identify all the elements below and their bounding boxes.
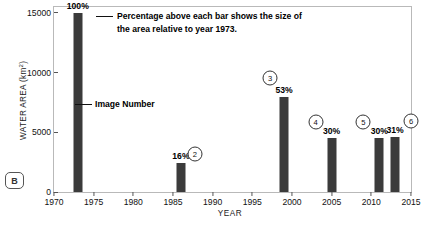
bar: [391, 137, 400, 193]
x-axis-tick-label: 1995: [243, 197, 262, 207]
x-axis-tick-mark: [252, 192, 253, 196]
y-axis-title: WATER AREA (km2): [18, 30, 29, 170]
bar: [73, 13, 82, 192]
x-axis-tick-mark: [54, 192, 55, 196]
x-axis-tick: 2015: [401, 192, 420, 207]
x-axis-tick: 2000: [282, 192, 301, 207]
y-axis-tick-mark: [54, 72, 58, 73]
y-axis-tick: 10000: [27, 68, 54, 78]
image-number-badge: 3: [263, 70, 278, 85]
bar-percent-label: 53%: [275, 85, 292, 95]
x-axis-tick: 1975: [84, 192, 103, 207]
x-axis-tick: 1970: [44, 192, 63, 207]
x-axis-tick-mark: [331, 192, 332, 196]
x-axis-tick: 1980: [124, 192, 143, 207]
x-axis-tick-label: 1970: [44, 197, 63, 207]
x-axis-tick-label: 2015: [401, 197, 420, 207]
y-axis-title-close: ): [19, 61, 28, 64]
x-axis-tick-mark: [212, 192, 213, 196]
x-axis-tick-label: 1985: [163, 197, 182, 207]
chart-annotation-note: Percentage above each bar shows the size…: [117, 10, 377, 35]
bar: [280, 97, 289, 192]
y-axis-tick-label: 10000: [27, 68, 54, 78]
x-axis-tick: 2005: [322, 192, 341, 207]
bar-percent-label: 30%: [371, 126, 388, 136]
x-axis-tick-label: 2000: [282, 197, 301, 207]
x-axis-tick-mark: [133, 192, 134, 196]
y-axis-tick: 5000: [32, 127, 54, 137]
x-axis-tick-label: 1980: [124, 197, 143, 207]
bar: [176, 163, 185, 192]
x-axis-title: YEAR: [45, 209, 415, 218]
x-axis-tick-mark: [173, 192, 174, 196]
y-axis-tick: 15000: [27, 8, 54, 18]
x-axis-tick: 1995: [243, 192, 262, 207]
y-axis-title-superscript: 2: [18, 64, 24, 68]
y-axis-tick-mark: [54, 132, 58, 133]
annotation-line-1: Percentage above each bar shows the size…: [117, 10, 377, 23]
image-number-legend-label: Image Number: [95, 99, 155, 109]
y-axis-tick-mark: [54, 12, 58, 13]
image-number-badge: 5: [356, 115, 371, 130]
x-axis-tick-mark: [292, 192, 293, 196]
x-axis-tick-mark: [371, 192, 372, 196]
image-number-badge: 6: [404, 113, 419, 128]
x-axis-tick-label: 1975: [84, 197, 103, 207]
x-axis-tick-mark: [93, 192, 94, 196]
x-axis-tick-mark: [411, 192, 412, 196]
y-axis-tick-label: 5000: [32, 127, 54, 137]
bar: [375, 138, 384, 192]
x-axis-tick: 1990: [203, 192, 222, 207]
bar-percent-label: 100%: [67, 1, 89, 11]
bar-percent-label: 31%: [387, 125, 404, 135]
y-axis-title-text: WATER AREA (km: [19, 67, 28, 139]
bar-percent-label: 30%: [323, 126, 340, 136]
annotation-leader-line: [96, 16, 113, 17]
image-number-badge: 4: [308, 114, 323, 129]
image-number-leader-line: [75, 104, 92, 105]
x-axis-tick-label: 1990: [203, 197, 222, 207]
x-axis-tick: 1985: [163, 192, 182, 207]
panel-label: B: [5, 172, 24, 189]
x-axis-tick-label: 2005: [322, 197, 341, 207]
annotation-line-2: the area relative to year 1973.: [117, 23, 377, 36]
image-number-badge: 2: [187, 147, 202, 162]
bar: [327, 138, 336, 192]
x-axis-tick: 2010: [362, 192, 381, 207]
x-axis-tick-label: 2010: [362, 197, 381, 207]
y-axis-tick-label: 15000: [27, 8, 54, 18]
